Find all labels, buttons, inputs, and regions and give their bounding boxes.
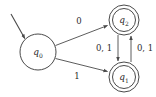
edge-arrow-icon [56, 59, 108, 72]
edge-label-q2-q1: 0, 1 [96, 43, 112, 53]
automaton-canvas: 0 1 0, 1 0, 1 q0 q2 [0, 0, 156, 97]
automaton-diagram: 0 1 0, 1 0, 1 q0 q2 [0, 0, 156, 97]
state-q1-label-subscript: 1 [125, 76, 129, 83]
transition-q0-q1: 1 [56, 59, 108, 82]
start-arrow-marker [11, 14, 25, 39]
transition-q0-q2: 0 [56, 16, 108, 46]
edge-label-q0-q2: 0 [76, 16, 81, 26]
transition-q1-q2: 0, 1 [131, 36, 153, 62]
transition-q2-q1: 0, 1 [96, 35, 118, 61]
edge-label-q0-q1: 1 [74, 71, 79, 81]
state-q2-label-subscript: 2 [125, 19, 129, 26]
start-arrow-icon [11, 14, 25, 39]
state-q2[interactable]: q2 [109, 5, 139, 35]
state-q0[interactable]: q0 [20, 34, 56, 70]
edge-label-q1-q2: 0, 1 [137, 43, 153, 53]
state-q1[interactable]: q1 [109, 62, 139, 92]
state-q0-label-subscript: 0 [39, 51, 43, 58]
